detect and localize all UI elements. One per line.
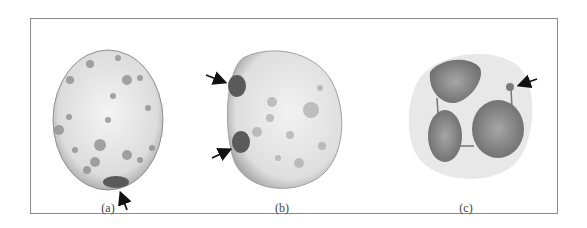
nuclear-lobe-2 <box>428 110 462 162</box>
drumstick-appendage <box>506 83 514 91</box>
arrow-a-icon <box>121 194 127 210</box>
panel-b-label: (b) <box>275 201 289 216</box>
panel-c-label: (c) <box>459 201 472 216</box>
panel-b-cell <box>206 51 342 189</box>
spot-b-upper <box>228 75 246 97</box>
panel-a-label: (a) <box>101 201 114 216</box>
figure-illustration <box>0 0 587 228</box>
arrow-b-upper-icon <box>206 75 224 82</box>
arrow-b-lower-icon <box>212 150 229 158</box>
spot-a <box>103 176 129 188</box>
panel-a-cell <box>53 50 163 210</box>
spot-b-lower <box>232 131 250 153</box>
nuclear-lobe-3 <box>472 100 524 158</box>
panel-c-cell <box>409 54 537 179</box>
